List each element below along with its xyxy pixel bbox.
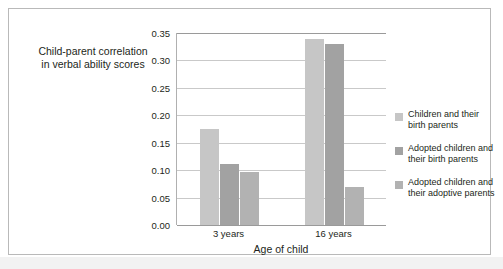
bar[interactable] bbox=[220, 164, 239, 225]
legend-label-line1: Adopted children and bbox=[408, 143, 493, 153]
y-tick-label: 0.20 bbox=[138, 110, 170, 121]
legend-swatch-icon bbox=[395, 147, 403, 155]
x-tick-label: 3 years bbox=[213, 228, 244, 239]
legend-label: Adopted children andtheir birth parents bbox=[408, 143, 493, 165]
legend-label-line1: Children and their bbox=[408, 109, 479, 119]
bar[interactable] bbox=[305, 39, 324, 226]
page-bottom-strip bbox=[0, 257, 503, 269]
gridline bbox=[177, 225, 386, 226]
bar-group bbox=[200, 33, 259, 225]
bar[interactable] bbox=[345, 187, 364, 225]
legend-label: Adopted children andtheir adoptive paren… bbox=[408, 177, 495, 199]
plot-inner bbox=[176, 33, 386, 225]
y-axis-title-line1: Child-parent correlation bbox=[38, 45, 147, 57]
legend-item[interactable]: Adopted children andtheir birth parents bbox=[395, 143, 503, 165]
y-tick-label: 0.00 bbox=[138, 220, 170, 231]
y-tick-label: 0.05 bbox=[138, 192, 170, 203]
x-axis-tick-labels: 3 years16 years bbox=[176, 228, 386, 242]
y-tick-label: 0.15 bbox=[138, 137, 170, 148]
x-tick-label: 16 years bbox=[315, 228, 351, 239]
legend-label-line2: birth parents bbox=[408, 120, 479, 131]
legend-label-line2: their adoptive parents bbox=[408, 188, 495, 199]
legend-swatch-icon bbox=[395, 113, 403, 121]
y-axis-tick-labels: 0.350.300.250.200.150.100.050.00 bbox=[136, 33, 170, 225]
legend-item[interactable]: Adopted children andtheir adoptive paren… bbox=[395, 177, 503, 199]
bar[interactable] bbox=[240, 172, 259, 225]
bar[interactable] bbox=[200, 129, 219, 225]
y-tick-label: 0.30 bbox=[138, 55, 170, 66]
legend-item[interactable]: Children and theirbirth parents bbox=[395, 109, 503, 131]
legend-label-line1: Adopted children and bbox=[408, 177, 493, 187]
y-tick-label: 0.10 bbox=[138, 165, 170, 176]
legend-label-line2: their birth parents bbox=[408, 154, 493, 165]
legend-swatch-icon bbox=[395, 181, 403, 189]
chart-frame: Child-parent correlation in verbal abili… bbox=[8, 8, 491, 255]
bar-group bbox=[305, 33, 364, 225]
plot-area bbox=[176, 33, 386, 225]
legend: Children and theirbirth parentsAdopted c… bbox=[395, 109, 503, 211]
y-tick-label: 0.35 bbox=[138, 28, 170, 39]
y-tick-label: 0.25 bbox=[138, 82, 170, 93]
bar[interactable] bbox=[325, 44, 344, 225]
legend-label: Children and theirbirth parents bbox=[408, 109, 479, 131]
x-axis-title: Age of child bbox=[176, 243, 386, 255]
